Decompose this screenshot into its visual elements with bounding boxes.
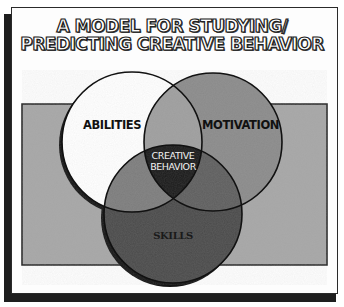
- print-grain-texture: [22, 70, 327, 285]
- creative-label-line-2: BEHAVIOR: [146, 161, 200, 172]
- motivation-label: MOTIVATION: [202, 118, 278, 132]
- skills-label: SKILLS: [150, 230, 196, 241]
- abilities-label: ABILITIES: [80, 118, 144, 132]
- creative-label-line-1: CREATIVE: [146, 150, 200, 161]
- creative-behavior-label: CREATIVE BEHAVIOR: [146, 150, 200, 172]
